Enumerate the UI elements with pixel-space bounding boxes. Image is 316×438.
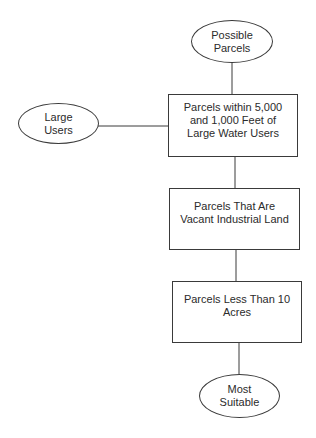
node-label: Parcels That Are Vacant Industrial Land bbox=[180, 195, 289, 226]
node-label: Most Suitable bbox=[220, 383, 260, 409]
node-label: Parcels Less Than 10 Acres bbox=[184, 288, 290, 319]
node-most-suitable: Most Suitable bbox=[199, 374, 280, 418]
node-large-users: Large Users bbox=[18, 103, 99, 144]
node-possible-parcels: Possible Parcels bbox=[191, 20, 273, 63]
node-within-distance: Parcels within 5,000 and 1,000 Feet of L… bbox=[168, 94, 298, 157]
node-label: Large Users bbox=[44, 111, 73, 137]
node-label: Possible Parcels bbox=[211, 29, 253, 55]
node-label: Parcels within 5,000 and 1,000 Feet of L… bbox=[184, 101, 282, 140]
node-vacant-industrial: Parcels That Are Vacant Industrial Land bbox=[169, 188, 300, 250]
node-less-than-10-acres: Parcels Less Than 10 Acres bbox=[172, 281, 302, 343]
